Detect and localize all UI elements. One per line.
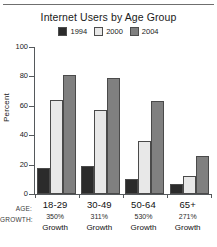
bar[interactable] [50,100,63,194]
bar[interactable] [196,156,209,194]
bar-group [81,47,125,194]
x-axis-tick [211,194,212,198]
bar[interactable] [94,110,107,194]
chart-figure: Internet Users by Age Group 1994 2000 20… [0,0,217,247]
y-tick-label: 40 [0,131,28,139]
bar[interactable] [138,141,151,194]
legend-item-1994[interactable]: 1994 [58,27,87,36]
bar-group [37,47,81,194]
bar[interactable] [183,176,196,194]
bar[interactable] [125,179,138,194]
growth-percent-label: 350% [33,211,77,222]
growth-percent-label: 530% [121,211,165,222]
growth-word-label: Growth [77,222,121,233]
growth-percent-label: 311% [77,211,121,222]
y-tick-label: 60 [0,102,28,110]
legend-item-2004[interactable]: 2004 [130,27,159,36]
bar[interactable] [170,184,183,194]
x-group-label-column: 65+271%Growth [166,199,210,233]
x-axis-tick [167,194,168,198]
x-group-label-column: 50-64530%Growth [121,199,165,233]
legend-swatch-1994 [58,27,67,36]
bars-layer [35,47,211,194]
growth-percent-label: 271% [166,211,210,222]
growth-word-label: Growth [33,222,77,233]
age-group-label: 50-64 [121,199,165,211]
age-group-label: 65+ [166,199,210,211]
x-axis-tick [79,194,80,198]
legend-swatch-2004 [130,27,139,36]
bar[interactable] [37,168,50,194]
chart-legend: 1994 2000 2004 [0,27,217,36]
legend-swatch-2000 [94,27,103,36]
bar-group [125,47,169,194]
x-group-label-column: 30-49311%Growth [77,199,121,233]
legend-label-2000: 2000 [106,27,123,36]
bar[interactable] [63,75,76,194]
y-tick-label: 20 [0,161,28,169]
growth-row-label: GROWTH: [0,216,32,224]
x-axis-tick [35,194,36,198]
legend-label-1994: 1994 [70,27,87,36]
x-group-label-column: 18-29350%Growth [33,199,77,233]
growth-word-label: Growth [166,222,210,233]
bar[interactable] [107,78,120,194]
bar[interactable] [151,101,164,194]
top-divider-rule [3,4,214,5]
x-axis-tick [123,194,124,198]
bar-group [170,47,214,194]
age-row-label: AGE: [0,205,32,213]
chart-title: Internet Users by Age Group [0,11,217,23]
growth-word-label: Growth [121,222,165,233]
y-tick-label: 100 [0,43,28,51]
age-group-label: 30-49 [77,199,121,211]
legend-label-2004: 2004 [142,27,159,36]
y-tick-label: 80 [0,72,28,80]
x-axis-label-table: AGE: GROWTH: 18-29350%Growth30-49311%Gro… [0,199,217,245]
y-tick-label: 0 [0,190,28,198]
legend-item-2000[interactable]: 2000 [94,27,123,36]
age-group-label: 18-29 [33,199,77,211]
bar[interactable] [81,166,94,194]
